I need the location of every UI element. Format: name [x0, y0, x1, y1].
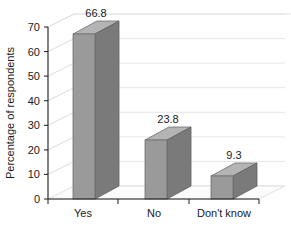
- bar-yes-side: [95, 21, 119, 199]
- bar-chart: 70 60 50 40 30 20 10 0 Percentage of res…: [0, 0, 291, 235]
- bar-yes-front: [73, 34, 95, 199]
- y-tick-label-60: 60: [28, 46, 40, 58]
- chart-canvas: 70 60 50 40 30 20 10 0 Percentage of res…: [0, 0, 291, 235]
- bar-dont-know-front: [211, 176, 233, 199]
- y-tick-label-10: 10: [28, 168, 40, 180]
- bar-no-side: [167, 127, 191, 199]
- y-tick-label-0: 0: [34, 193, 40, 205]
- y-tick-label-40: 40: [28, 95, 40, 107]
- x-label-yes: Yes: [74, 207, 92, 219]
- x-label-dont-know: Don't know: [197, 207, 251, 219]
- value-label-yes: 66.8: [85, 7, 106, 19]
- bar-no: [145, 127, 191, 199]
- y-tick-label-50: 50: [28, 70, 40, 82]
- value-label-no: 23.8: [157, 113, 178, 125]
- y-tick-label-20: 20: [28, 144, 40, 156]
- chart-background: [0, 0, 291, 235]
- y-tick-label-30: 30: [28, 119, 40, 131]
- bar-no-front: [145, 140, 167, 199]
- value-label-dont-know: 9.3: [226, 149, 241, 161]
- x-label-no: No: [147, 207, 161, 219]
- y-axis-title: Percentage of respondents: [4, 46, 16, 179]
- bar-yes: [73, 21, 119, 199]
- y-tick-label-70: 70: [28, 21, 40, 33]
